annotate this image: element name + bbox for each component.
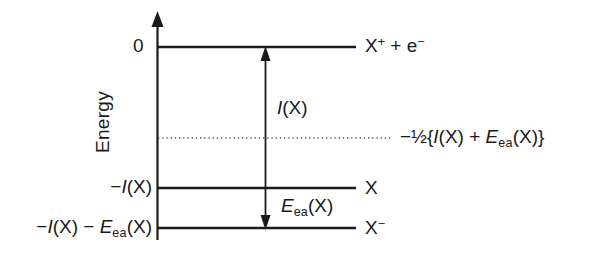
anion-base: X <box>365 217 378 238</box>
neg-i-ea-paren-x-2: (X) <box>127 216 152 237</box>
ionization-arrow <box>261 46 271 188</box>
neg-i-ea-sub-ea: ea <box>112 226 126 240</box>
reference-italic-e: E <box>486 126 499 147</box>
cation-charge-superscript: + <box>378 35 385 49</box>
energy-value-anion: −I(X) − Eea(X) <box>36 217 152 239</box>
cation-plus-electron: + e <box>385 35 417 56</box>
cation-base: X <box>365 35 378 56</box>
neg-i-ea-italic-e: E <box>100 216 113 237</box>
neg-i-ea-paren-x-1: (X) <box>53 216 78 237</box>
energy-axis-arrowhead-icon <box>152 11 164 27</box>
neg-i-ea-minus-2: − <box>78 216 100 237</box>
energy-axis-title: Energy <box>92 72 112 172</box>
eea-italic-e: E <box>281 195 294 216</box>
ix-paren-x: (X) <box>282 97 307 118</box>
reference-paren-x-1: (X) <box>439 126 464 147</box>
species-label-anion: X− <box>365 218 385 237</box>
electron-affinity-arrow-label: Eea(X) <box>281 196 333 218</box>
reference-plus: + <box>469 126 480 147</box>
reference-brace-close: } <box>538 126 544 147</box>
reference-sub-ea: ea <box>498 136 512 150</box>
reference-line-label: −½{I(X) + Eea(X)} <box>400 127 544 149</box>
energy-axis <box>152 11 164 240</box>
energy-value-neutral: −I(X) <box>110 177 152 196</box>
reference-half: ½ <box>411 126 427 147</box>
energy-level-diagram: 0 Energy X+ + e− −½{I(X) + Eea(X)} X X− … <box>0 0 596 262</box>
neutral-base: X <box>365 177 378 198</box>
species-label-cation: X+ + e− <box>365 36 425 55</box>
ionization-arrow-label: I(X) <box>277 98 308 117</box>
anion-charge-superscript: − <box>378 217 385 231</box>
axis-zero-label: 0 <box>133 36 144 55</box>
neg-i-ea-minus-1: − <box>36 216 47 237</box>
reference-paren-x-2: (X) <box>513 126 538 147</box>
neg-i-minus: − <box>110 176 121 197</box>
eea-sub-ea: ea <box>294 205 308 219</box>
reference-minus: − <box>400 126 411 147</box>
electron-charge-superscript: − <box>417 35 424 49</box>
ionization-arrowhead-icon <box>261 46 271 61</box>
eea-paren-x: (X) <box>308 195 333 216</box>
electron-affinity-arrow <box>261 188 271 230</box>
neg-i-paren-x: (X) <box>127 176 152 197</box>
species-label-neutral: X <box>365 178 378 197</box>
energy-axis-title-text: Energy <box>93 91 112 153</box>
